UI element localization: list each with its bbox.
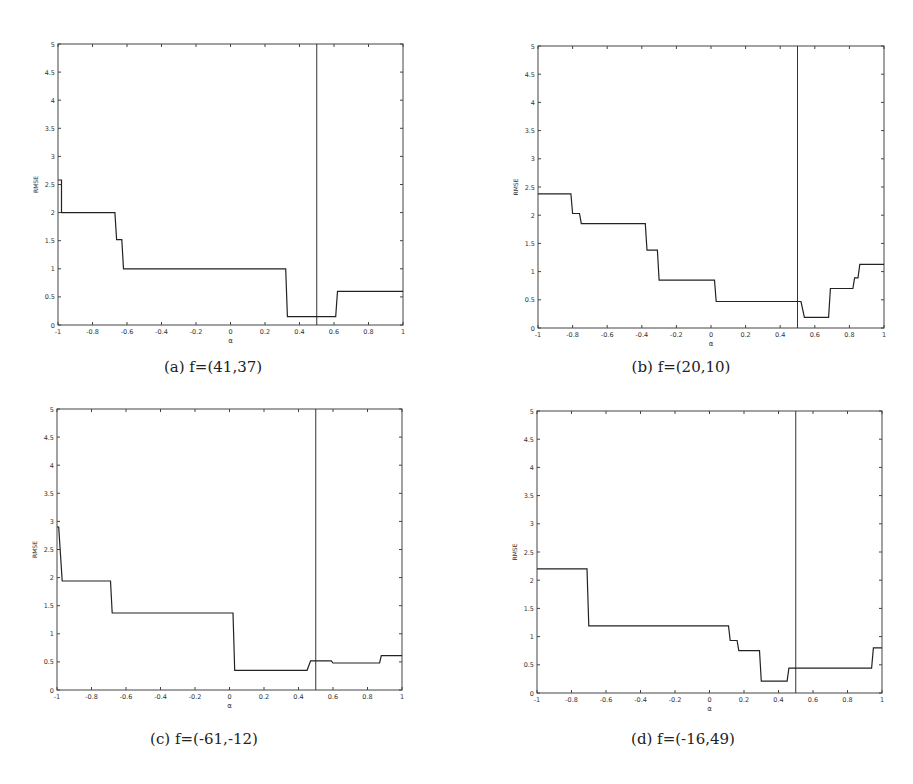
y-tick-label: 5 bbox=[51, 41, 55, 49]
y-tick-label: 1 bbox=[50, 630, 54, 638]
x-tick-label: 0.8 bbox=[363, 328, 373, 336]
y-tick-label: 3 bbox=[530, 520, 534, 528]
y-tick-label: 4.5 bbox=[44, 434, 54, 442]
x-tick-label: 0.4 bbox=[293, 693, 303, 701]
y-tick-label: 3 bbox=[50, 518, 54, 526]
x-tick-label: 0 bbox=[707, 696, 711, 704]
x-tick-label: -0.6 bbox=[120, 693, 133, 701]
x-tick-label: 0.6 bbox=[328, 693, 338, 701]
y-tick-label: 1 bbox=[530, 633, 534, 641]
x-tick-label: 0.6 bbox=[329, 328, 339, 336]
x-tick-label: 0.8 bbox=[362, 693, 372, 701]
x-tick-label: 1 bbox=[401, 328, 405, 336]
x-tick-label: 0.6 bbox=[808, 696, 818, 704]
y-tick-label: 2 bbox=[50, 574, 54, 582]
y-tick-label: 1.5 bbox=[44, 602, 54, 610]
y-axis-label: RMSE bbox=[512, 178, 519, 195]
x-tick-label: 0.2 bbox=[740, 331, 750, 339]
y-tick-label: 0.5 bbox=[45, 293, 55, 301]
caption-c: (c) f=(-61,-12) bbox=[150, 730, 258, 748]
axes-box bbox=[537, 411, 882, 693]
y-tick-label: 0 bbox=[531, 325, 535, 333]
y-tick-label: 1.5 bbox=[525, 240, 535, 248]
y-tick-label: 1.5 bbox=[524, 605, 534, 613]
x-tick-label: -0.8 bbox=[565, 696, 578, 704]
y-axis-label: RMSE bbox=[31, 541, 38, 558]
x-tick-label: 0.4 bbox=[294, 328, 304, 336]
y-tick-label: 3.5 bbox=[525, 127, 535, 135]
x-tick-label: -0.6 bbox=[121, 328, 134, 336]
y-tick-label: 0.5 bbox=[525, 296, 535, 304]
y-tick-label: 4.5 bbox=[525, 71, 535, 79]
x-tick-label: 0 bbox=[228, 328, 232, 336]
x-tick-label: -0.4 bbox=[634, 696, 647, 704]
x-tick-label: 0.8 bbox=[844, 331, 854, 339]
x-tick-label: 0.4 bbox=[775, 331, 785, 339]
y-tick-label: 4 bbox=[531, 99, 535, 107]
y-tick-label: 4 bbox=[530, 464, 534, 472]
y-tick-label: 4 bbox=[50, 462, 54, 470]
x-tick-label: -0.4 bbox=[155, 328, 168, 336]
y-axis-label: RMSE bbox=[32, 176, 39, 193]
x-tick-label: -0.8 bbox=[85, 693, 98, 701]
y-tick-label: 4.5 bbox=[45, 69, 55, 77]
x-tick-label: -0.2 bbox=[669, 696, 682, 704]
caption-a: (a) f=(41,37) bbox=[164, 358, 262, 376]
y-tick-label: 2 bbox=[530, 577, 534, 585]
x-tick-label: -0.2 bbox=[670, 331, 683, 339]
y-tick-label: 1 bbox=[51, 265, 55, 273]
y-tick-label: 1 bbox=[531, 268, 535, 276]
x-axis-label: α bbox=[227, 702, 232, 710]
y-tick-label: 0 bbox=[50, 687, 54, 695]
y-tick-label: 2 bbox=[51, 209, 55, 217]
x-tick-label: 0.2 bbox=[259, 693, 269, 701]
y-tick-label: 0 bbox=[530, 690, 534, 698]
y-tick-label: 5 bbox=[531, 43, 535, 51]
y-tick-label: 3.5 bbox=[45, 125, 55, 133]
x-tick-label: -1 bbox=[54, 693, 60, 701]
y-tick-label: 3.5 bbox=[44, 490, 54, 498]
chart-panel-d: -1-0.8-0.6-0.4-0.200.20.40.60.8100.511.5… bbox=[511, 408, 884, 714]
y-tick-label: 0.5 bbox=[44, 658, 54, 666]
x-axis-label: α bbox=[707, 705, 712, 713]
y-axis-label: RMSE bbox=[511, 543, 518, 560]
y-tick-label: 4.5 bbox=[524, 436, 534, 444]
caption-d: (d) f=(-16,49) bbox=[631, 730, 735, 748]
y-tick-label: 2.5 bbox=[45, 181, 55, 189]
x-tick-label: 1 bbox=[882, 331, 886, 339]
x-tick-label: 0.4 bbox=[773, 696, 783, 704]
y-tick-label: 5 bbox=[50, 406, 54, 414]
y-tick-label: 4 bbox=[51, 97, 55, 105]
y-tick-label: 3 bbox=[51, 153, 55, 161]
figure: -1-0.8-0.6-0.4-0.200.20.40.60.8100.511.5… bbox=[0, 0, 913, 784]
x-tick-label: -1 bbox=[535, 331, 541, 339]
y-tick-label: 5 bbox=[530, 408, 534, 416]
x-tick-label: -1 bbox=[534, 696, 540, 704]
x-tick-label: 1 bbox=[880, 696, 884, 704]
y-tick-label: 3 bbox=[531, 155, 535, 163]
x-tick-label: -0.4 bbox=[635, 331, 648, 339]
rmse-step-line bbox=[537, 569, 882, 681]
y-tick-label: 2.5 bbox=[44, 546, 54, 554]
x-tick-label: 0.2 bbox=[739, 696, 749, 704]
x-tick-label: -0.8 bbox=[86, 328, 99, 336]
y-tick-label: 2 bbox=[531, 212, 535, 220]
rmse-step-line bbox=[538, 194, 884, 317]
chart-panel-a: -1-0.8-0.6-0.4-0.200.20.40.60.8100.511.5… bbox=[32, 41, 405, 346]
y-tick-label: 1.5 bbox=[45, 237, 55, 245]
chart-panel-c: -1-0.8-0.6-0.4-0.200.20.40.60.8100.511.5… bbox=[31, 406, 404, 711]
rmse-step-line bbox=[58, 180, 403, 317]
chart-panel-b: -1-0.8-0.6-0.4-0.200.20.40.60.8100.511.5… bbox=[512, 43, 886, 349]
caption-b: (b) f=(20,10) bbox=[632, 358, 731, 376]
x-tick-label: 0.2 bbox=[260, 328, 270, 336]
plots-canvas: -1-0.8-0.6-0.4-0.200.20.40.60.8100.511.5… bbox=[0, 0, 913, 784]
axes-box bbox=[57, 409, 402, 690]
x-tick-label: 0 bbox=[709, 331, 713, 339]
x-tick-label: -1 bbox=[55, 328, 61, 336]
x-tick-label: -0.6 bbox=[601, 331, 614, 339]
axes-box bbox=[538, 46, 884, 328]
axes-box bbox=[58, 44, 403, 325]
y-tick-label: 2.5 bbox=[525, 184, 535, 192]
x-tick-label: 1 bbox=[400, 693, 404, 701]
x-tick-label: -0.6 bbox=[600, 696, 613, 704]
